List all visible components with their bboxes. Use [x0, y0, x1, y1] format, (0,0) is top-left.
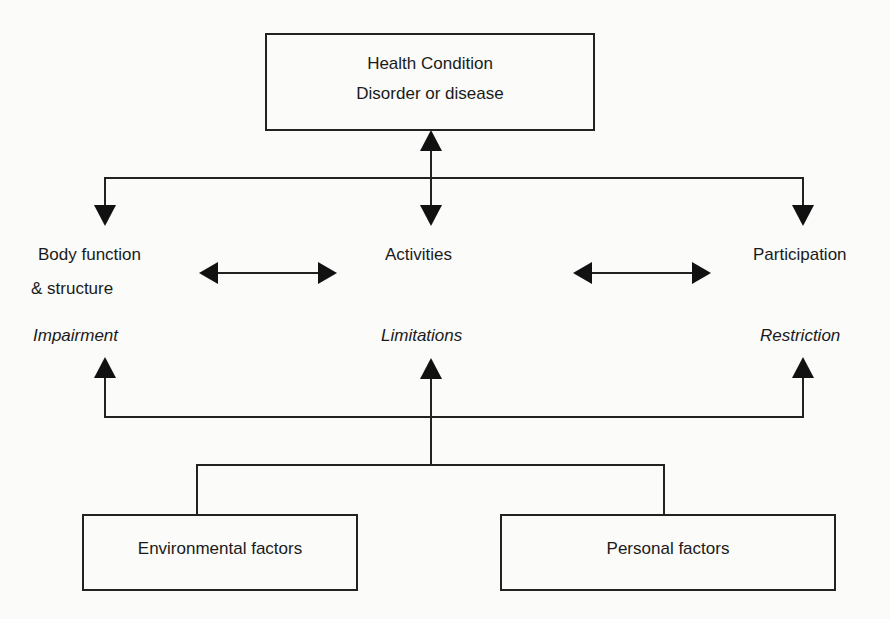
participation-label: Participation — [753, 244, 847, 266]
health-condition-subtitle: Disorder or disease — [267, 83, 593, 105]
personal-factors-label: Personal factors — [502, 538, 834, 560]
personal-factors-box: Personal factors — [500, 514, 836, 591]
impairment-label: Impairment — [33, 325, 118, 347]
arrowhead-up-health — [420, 130, 442, 151]
arrowhead-up-activities — [420, 358, 442, 379]
health-condition-title: Health Condition — [267, 53, 593, 75]
environmental-factors-box: Environmental factors — [82, 514, 358, 591]
arrowhead-down-body — [94, 205, 116, 226]
arrowhead-down-participation — [792, 205, 814, 226]
top-connector — [105, 178, 803, 205]
bottom-connector — [105, 378, 803, 417]
limitations-label: Limitations — [381, 325, 462, 347]
arrowhead-right-1 — [318, 262, 337, 284]
arrowhead-up-participation — [792, 357, 814, 378]
arrowhead-down-activities — [420, 205, 442, 226]
activities-label: Activities — [385, 244, 452, 266]
arrowhead-left-2 — [573, 262, 592, 284]
body-structure-label: & structure — [31, 278, 113, 300]
restriction-label: Restriction — [760, 325, 840, 347]
arrowhead-right-2 — [692, 262, 711, 284]
environmental-factors-label: Environmental factors — [84, 538, 356, 560]
body-function-label: Body function — [38, 244, 141, 266]
health-condition-box: Health Condition Disorder or disease — [265, 33, 595, 131]
arrowhead-up-body — [94, 357, 116, 378]
factors-split-connector — [197, 465, 664, 514]
arrowhead-left-1 — [199, 262, 218, 284]
